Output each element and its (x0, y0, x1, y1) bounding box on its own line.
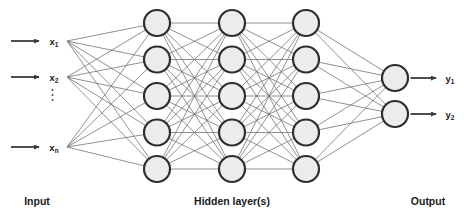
connection-line (306, 114, 395, 169)
hidden-node (144, 156, 170, 182)
hidden-node (144, 10, 170, 36)
output-node-label: y2 (446, 109, 455, 121)
output-node (382, 101, 408, 127)
hidden-node (219, 83, 245, 109)
output-node-label: y1 (446, 73, 455, 85)
hidden-node (293, 156, 319, 182)
hidden-node (293, 47, 319, 73)
hidden-node (144, 120, 170, 146)
hidden-node (144, 83, 170, 109)
hidden-node (219, 120, 245, 146)
input-ellipsis-dot (52, 89, 54, 91)
network-canvas: x1x2xny1y2 (0, 0, 464, 221)
hidden-node (293, 120, 319, 146)
neural-network-diagram: x1x2xny1y2 Input Hidden layer(s) Output (0, 0, 464, 221)
hidden-node (219, 10, 245, 36)
section-label-hidden: Hidden layer(s) (194, 195, 270, 207)
connection-line (67, 77, 157, 169)
section-label-input: Input (24, 195, 50, 207)
hidden-node (219, 156, 245, 182)
input-node-label: x1 (50, 36, 59, 48)
output-node (382, 65, 408, 91)
connection-line (306, 78, 395, 133)
connection-line (306, 23, 395, 78)
input-ellipsis-dot (52, 99, 54, 101)
input-node-label: x2 (50, 72, 59, 84)
hidden-node (293, 83, 319, 109)
input-ellipsis-dot (52, 94, 54, 96)
hidden-node (144, 47, 170, 73)
section-label-output: Output (411, 195, 445, 207)
input-node-label: xn (49, 142, 58, 154)
hidden-node (293, 10, 319, 36)
hidden-node (219, 47, 245, 73)
